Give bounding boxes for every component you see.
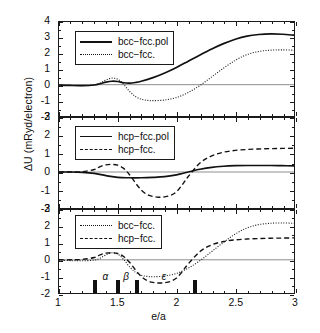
x-tick [106,210,107,212]
x-tick [94,206,95,208]
x-tick [224,118,225,120]
x-tick [177,112,178,116]
y-tick [59,200,61,201]
y-tick [292,94,294,95]
y-tick [290,38,294,39]
x-tick [284,206,285,208]
x-tick [141,118,142,120]
x-tick [165,291,166,293]
x-tick [248,118,249,120]
legend-panel-3: bcc−fcc. hcp−fcc. [75,215,162,249]
x-tick [260,22,261,24]
legend-entry: hcp−fcc. [80,232,156,245]
x-tick [106,22,107,24]
y-tick [59,164,61,165]
y-tick-label: 0 [28,79,50,89]
x-tick [272,206,273,208]
x-tick [130,118,131,120]
y-tick [59,102,63,103]
y-tick [290,227,294,228]
y-tick [59,78,61,79]
x-tick [153,22,154,24]
x-tick [82,291,83,293]
x-tick [177,118,178,122]
x-tick [82,22,83,24]
x-tick [201,118,202,120]
y-tick [290,70,294,71]
phase-boundary-marker [135,280,139,293]
y-tick [292,46,294,47]
x-tick [248,291,249,293]
x-tick [272,114,273,116]
phase-boundary-marker [193,280,197,293]
y-tick-label: 3 [28,31,50,41]
x-tick [59,210,60,214]
x-tick [165,210,166,212]
x-tick [296,112,297,116]
x-tick [236,22,237,26]
x-tick [141,206,142,208]
legend-label: hcp−fcc.pol [118,131,169,142]
x-tick [201,206,202,208]
legend-swatch-solid-icon [80,132,112,142]
x-tick-label: 1 [43,296,73,308]
y-tick [59,70,63,71]
panel-bcc-fcc-pol: bcc−fcc.pol bcc−fcc. [58,21,295,117]
y-tick-label: 2 [28,129,50,139]
x-tick [296,210,297,214]
y-tick [292,235,294,236]
x-tick [70,118,71,120]
y-tick [290,22,294,23]
x-tick [224,114,225,116]
y-tick [59,182,61,183]
x-tick [153,210,154,212]
x-tick [189,206,190,208]
x-tick [284,114,285,116]
x-tick [165,206,166,208]
y-tick [59,38,63,39]
legend-entry: bcc−fcc. [80,219,156,232]
x-tick [260,114,261,116]
x-tick [177,210,178,214]
x-tick [224,22,225,24]
x-tick [70,114,71,116]
y-tick [59,269,61,270]
legend-panel-2: hcp−fcc.pol hcp−fcc. [75,126,175,160]
x-tick [70,206,71,208]
x-tick [70,291,71,293]
y-tick [59,252,61,253]
x-tick [59,204,60,208]
x-tick [248,114,249,116]
y-tick-label: 3 [28,203,50,213]
x-tick [272,291,273,293]
y-tick [290,261,294,262]
x-tick [165,118,166,120]
x-tick [165,114,166,116]
x-tick [141,114,142,116]
y-tick-label: 1 [28,148,50,158]
y-tick-label: 2 [28,220,50,230]
y-tick [292,218,294,219]
x-tick [82,206,83,208]
legend-swatch-dashed-icon [80,234,112,244]
x-tick [213,291,214,293]
x-tick [153,114,154,116]
x-tick [213,114,214,116]
y-tick [59,46,61,47]
panel-hcp-fcc-pol: hcp−fcc.pol hcp−fcc. [58,117,295,209]
x-tick [59,22,60,26]
y-tick [59,136,63,137]
y-tick [292,269,294,270]
x-tick [284,22,285,24]
x-tick [260,118,261,120]
legend-swatch-dotted-icon [80,221,112,231]
x-tick [94,118,95,120]
y-tick [59,244,63,245]
x-tick [224,291,225,293]
x-tick [236,118,237,122]
x-tick [260,206,261,208]
x-tick [213,206,214,208]
x-tick [177,289,178,293]
x-tick-label: 1.5 [102,296,132,308]
y-tick-label: 3 [28,111,50,121]
